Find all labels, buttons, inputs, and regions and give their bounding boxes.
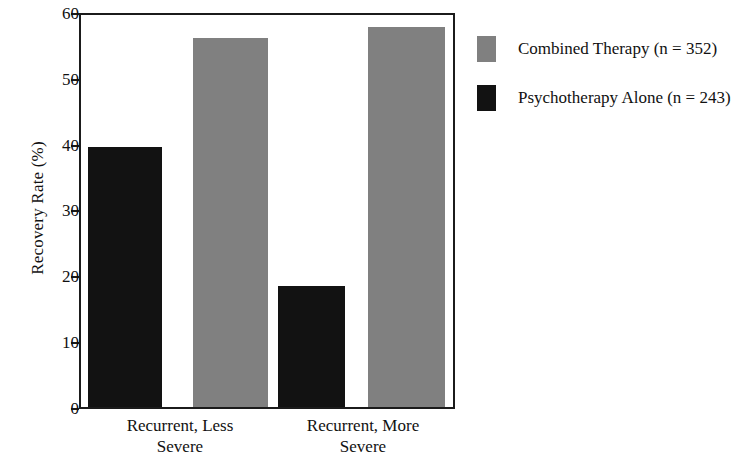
legend-swatch-psychotherapy-alone xyxy=(477,85,496,111)
legend-label-combined-therapy: Combined Therapy (n = 352) xyxy=(518,39,717,59)
y-tick-label-40: 40 xyxy=(41,137,79,154)
y-tick-label-50: 50 xyxy=(41,71,79,88)
x-axis-label-less-severe-line2: Severe xyxy=(75,436,285,457)
plot-area xyxy=(79,13,455,409)
x-axis-label-more-severe-line2: Severe xyxy=(258,436,468,457)
bar-combined-therapy-less-severe xyxy=(193,38,268,407)
x-axis-label-less-severe-line1: Recurrent, Less xyxy=(75,415,285,436)
y-tick-label-30: 30 xyxy=(41,202,79,219)
legend-label-psychotherapy-alone: Psychotherapy Alone (n = 243) xyxy=(518,88,731,108)
bar-psychotherapy-alone-more-severe xyxy=(278,286,345,407)
y-axis: 0 10 20 30 40 50 60 xyxy=(0,0,79,464)
y-tick-label-20: 20 xyxy=(41,268,79,285)
legend-swatch-combined-therapy xyxy=(477,36,496,62)
x-axis-label-less-severe: Recurrent, Less Severe xyxy=(75,415,285,457)
y-tick-label-60: 60 xyxy=(41,5,79,22)
x-axis-label-more-severe-line1: Recurrent, More xyxy=(258,415,468,436)
x-axis-label-more-severe: Recurrent, More Severe xyxy=(258,415,468,457)
bar-combined-therapy-more-severe xyxy=(368,27,445,407)
bar-psychotherapy-alone-less-severe xyxy=(88,147,162,407)
legend-item-psychotherapy-alone: Psychotherapy Alone (n = 243) xyxy=(477,85,731,111)
legend-item-combined-therapy: Combined Therapy (n = 352) xyxy=(477,36,717,62)
y-tick-label-0: 0 xyxy=(41,400,79,417)
y-tick-label-10: 10 xyxy=(41,334,79,351)
